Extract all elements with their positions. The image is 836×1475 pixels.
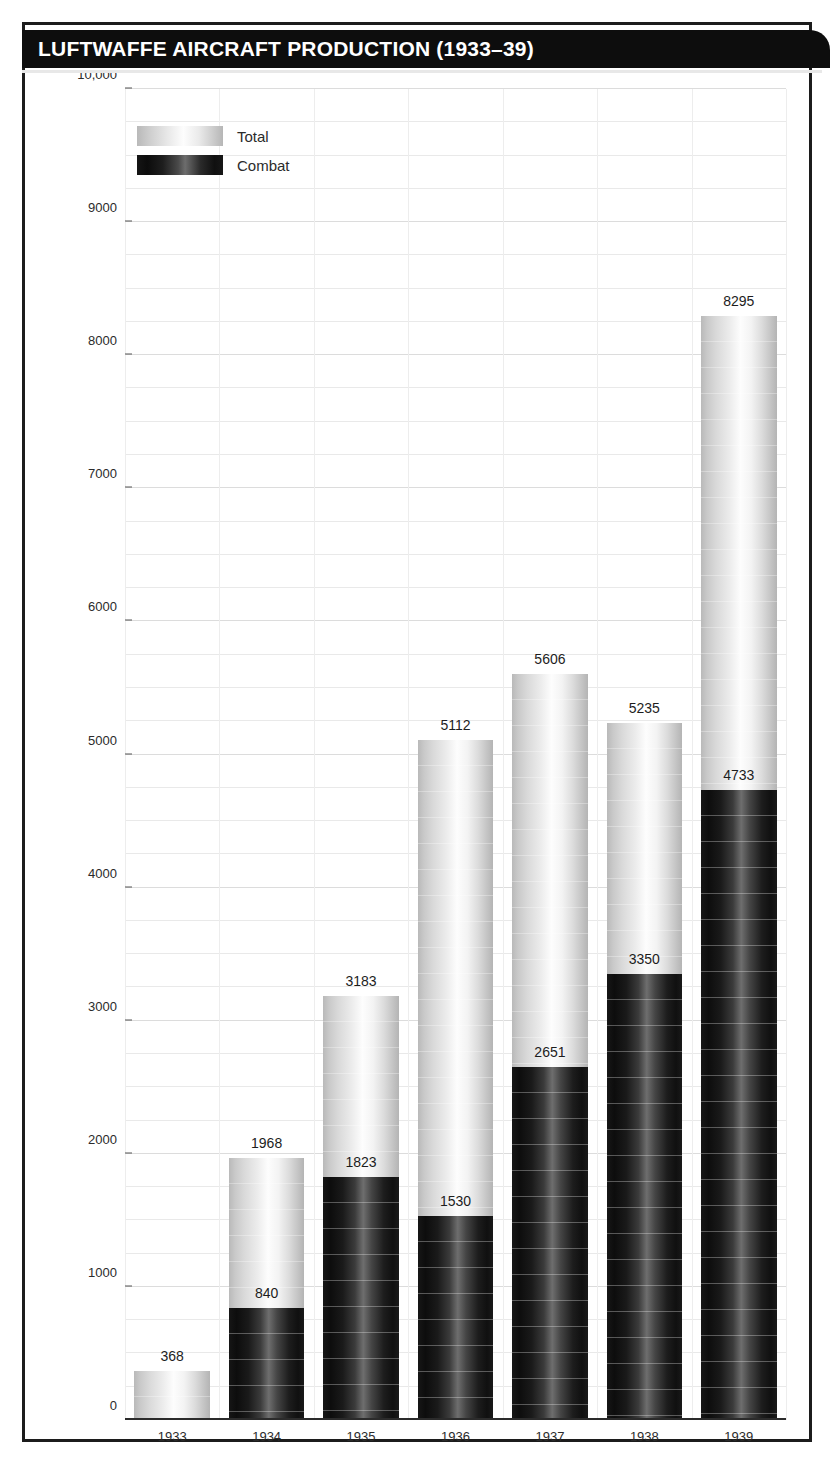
bar-texture-overlay [701, 790, 777, 1420]
x-axis-tick-label: 1937 [535, 1429, 564, 1444]
chart-figure: 3681968840318318235112153056062651523533… [22, 22, 812, 1442]
x-axis-tick-label: 1938 [630, 1429, 659, 1444]
gridline-vertical [219, 89, 220, 1420]
gridline-horizontal [125, 620, 786, 621]
bar-label-total: 5235 [629, 700, 660, 716]
bar-label-combat: 4733 [723, 767, 754, 783]
gridline-horizontal-minor [125, 421, 786, 422]
bar-label-combat: 840 [255, 1285, 278, 1301]
bar-combat[interactable] [701, 790, 777, 1420]
gridline-horizontal [125, 487, 786, 488]
y-axis-tick-label: 2000 [88, 1131, 117, 1146]
gridline-horizontal-minor [125, 587, 786, 588]
y-axis-tick-label: 3000 [88, 998, 117, 1013]
bar-combat[interactable] [323, 1177, 399, 1420]
gridline-horizontal-minor [125, 554, 786, 555]
y-axis-tick-mark [125, 753, 132, 754]
gridline-vertical [597, 89, 598, 1420]
gridline-vertical [503, 89, 504, 1420]
gridline-vertical [408, 89, 409, 1420]
gridline-horizontal [125, 354, 786, 355]
y-axis-tick-mark [125, 1152, 132, 1153]
y-axis-tick-mark [125, 620, 132, 621]
y-axis-tick-mark [125, 487, 132, 488]
x-axis-tick-label: 1936 [441, 1429, 470, 1444]
gridline-horizontal-minor [125, 321, 786, 322]
bar-column[interactable]: 56062651 [512, 674, 588, 1420]
legend-item-total: Total [137, 125, 290, 147]
bar-texture-overlay [134, 1371, 210, 1420]
y-axis-tick-mark [125, 221, 132, 222]
bar-column[interactable]: 31831823 [323, 996, 399, 1420]
x-axis-tick-label: 1935 [347, 1429, 376, 1444]
gridline-horizontal-minor [125, 254, 786, 255]
bar-label-total: 1968 [251, 1135, 282, 1151]
gridline-horizontal [125, 88, 786, 89]
y-axis-tick-label: 7000 [88, 466, 117, 481]
y-axis-tick-mark [125, 88, 132, 89]
gridline-horizontal-minor [125, 687, 786, 688]
x-axis-tick-label: 1939 [724, 1429, 753, 1444]
gridline-vertical [692, 89, 693, 1420]
bar-column[interactable]: 1968840 [229, 1158, 305, 1420]
bar-column[interactable]: 82954733 [701, 316, 777, 1420]
gridline-horizontal-minor [125, 654, 786, 655]
banner-underline [22, 70, 822, 73]
y-axis-tick-label: 6000 [88, 599, 117, 614]
bar-label-total: 368 [161, 1348, 184, 1364]
bar-texture-overlay [418, 1216, 494, 1420]
x-axis-line [125, 1418, 786, 1420]
y-axis-tick-mark [125, 1285, 132, 1286]
bar-column[interactable]: 51121530 [418, 740, 494, 1420]
bar-label-combat: 2651 [534, 1044, 565, 1060]
bar-label-total: 5606 [534, 651, 565, 667]
bar-total[interactable] [134, 1371, 210, 1420]
bar-texture-overlay [512, 1067, 588, 1420]
y-axis-tick-label: 0 [110, 1398, 117, 1413]
plot-area: 3681968840318318235112153056062651523533… [125, 89, 786, 1420]
bar-label-combat: 3350 [629, 951, 660, 967]
bar-label-total: 3183 [345, 973, 376, 989]
legend-label-combat: Combat [237, 157, 290, 174]
bar-column[interactable]: 368 [134, 1371, 210, 1420]
gridline-horizontal-minor [125, 121, 786, 122]
gridline-vertical [786, 89, 787, 1420]
bar-texture-overlay [323, 1177, 399, 1420]
gridline-horizontal [125, 221, 786, 222]
gridline-horizontal-minor [125, 188, 786, 189]
chart-legend: Total Combat [137, 125, 290, 183]
legend-swatch-combat-icon [137, 155, 223, 175]
y-axis-tick-mark [125, 1019, 132, 1020]
bar-label-combat: 1823 [345, 1154, 376, 1170]
bar-label-total: 5112 [440, 717, 470, 733]
y-axis-tick-label: 8000 [88, 333, 117, 348]
legend-swatch-total-icon [137, 126, 223, 146]
y-axis-tick-mark [125, 354, 132, 355]
gridline-vertical [125, 89, 126, 1420]
y-axis-tick-label: 4000 [88, 865, 117, 880]
bar-combat[interactable] [418, 1216, 494, 1420]
gridline-vertical [314, 89, 315, 1420]
gridline-horizontal-minor [125, 454, 786, 455]
bar-combat[interactable] [607, 974, 683, 1420]
gridline-horizontal-minor [125, 288, 786, 289]
legend-item-combat: Combat [137, 154, 290, 176]
bar-combat[interactable] [512, 1067, 588, 1420]
bar-column[interactable]: 52353350 [607, 723, 683, 1420]
y-axis-tick-label: 10,000 [77, 67, 117, 82]
bar-label-total: 8295 [723, 293, 754, 309]
y-axis-tick-mark [125, 886, 132, 887]
bar-texture-overlay [607, 974, 683, 1420]
page-title: LUFTWAFFE AIRCRAFT PRODUCTION (1933–39) [38, 37, 534, 61]
y-axis-tick-label: 1000 [88, 1264, 117, 1279]
x-axis-tick-label: 1934 [252, 1429, 281, 1444]
title-banner: LUFTWAFFE AIRCRAFT PRODUCTION (1933–39) [22, 30, 830, 68]
y-axis-tick-label: 9000 [88, 200, 117, 215]
gridline-horizontal-minor [125, 387, 786, 388]
bar-combat[interactable] [229, 1308, 305, 1420]
x-axis-tick-label: 1933 [158, 1429, 187, 1444]
legend-label-total: Total [237, 128, 269, 145]
gridline-horizontal-minor [125, 521, 786, 522]
bar-label-combat: 1530 [440, 1193, 471, 1209]
y-axis-tick-label: 5000 [88, 732, 117, 747]
